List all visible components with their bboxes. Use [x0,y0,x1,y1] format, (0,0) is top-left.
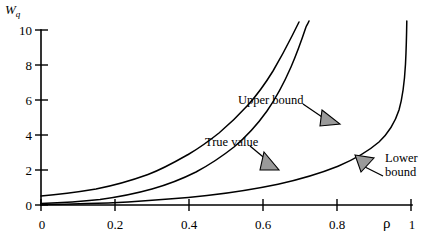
x-tick-label-0-6: 0.6 [248,218,278,231]
x-tick-label-1: 1 [403,218,421,231]
chart-canvas [0,0,430,242]
y-tick-label-10: 10 [10,24,32,37]
x-tick-label-0-4: 0.4 [174,218,204,231]
y-tick-label-8: 8 [10,59,32,72]
true-value-arrow [250,146,279,170]
y-tick-label-0: 0 [10,199,32,212]
annotation-upper-bound: Upper bound [238,94,304,108]
y-tick-label-4: 4 [10,129,32,142]
curve-lower-bound [41,21,407,205]
annotation-lower-bound-line1: Lower [385,151,418,165]
y-tick-label-2: 2 [10,164,32,177]
upper-bound-arrow [303,104,340,126]
y-axis-title: Wq [5,3,20,19]
y-axis-title-text: W [5,2,16,17]
x-tick-label-0-2: 0.2 [100,218,130,231]
curve-true-value [41,21,309,204]
queueing-delay-chart: Wq ρ 10 8 6 4 2 0 0 0.2 0.4 0.6 0.8 1 Up… [0,0,430,242]
y-axis-title-subscript: q [16,9,21,19]
annotation-lower-bound-line2: bound [385,165,416,179]
x-tick-label-0: 0 [33,218,51,231]
y-tick-label-6: 6 [10,94,32,107]
lower-bound-arrow [355,155,383,176]
x-tick-label-0-8: 0.8 [322,218,352,231]
x-axis-title: ρ [383,216,391,231]
annotation-lower-bound: Lowerbound [385,152,430,179]
annotation-true-value: True value [205,136,258,150]
